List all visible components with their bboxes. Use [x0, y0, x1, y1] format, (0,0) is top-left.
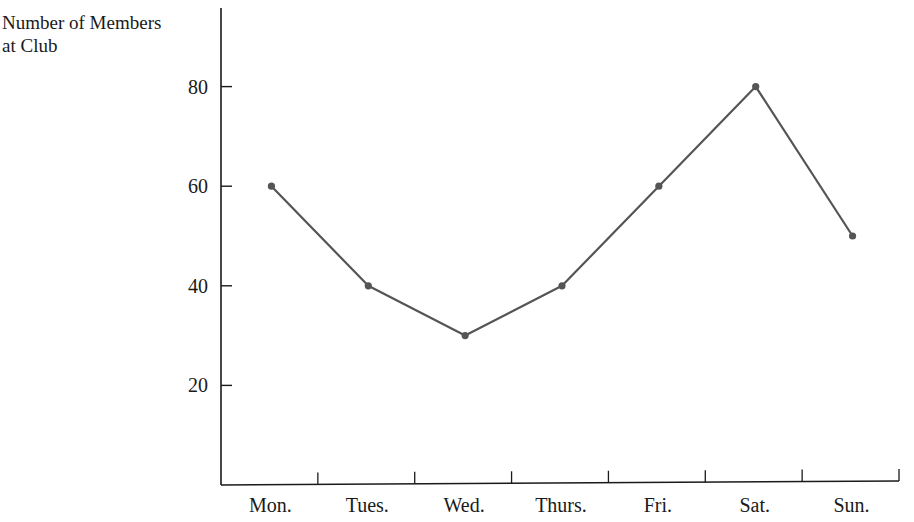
axes: [221, 8, 899, 485]
data-point-marker: [365, 282, 372, 289]
x-axis-ticks: Mon.Tues.Wed.Thurs.Fri.Sat.Sun.: [249, 469, 899, 516]
y-tick-label: 80: [188, 76, 208, 98]
x-tick-label: Wed.: [444, 494, 485, 516]
x-tick-label: Sat.: [739, 494, 770, 516]
y-tick-label: 60: [188, 175, 208, 197]
y-tick-label: 40: [188, 275, 208, 297]
x-tick-label: Mon.: [249, 494, 292, 516]
data-series: [268, 83, 856, 339]
x-axis-line: [221, 481, 899, 485]
series-line: [271, 87, 852, 336]
data-point-marker: [752, 83, 759, 90]
x-tick-label: Thurs.: [535, 494, 587, 516]
y-tick-label: 20: [188, 374, 208, 396]
data-point-marker: [655, 183, 662, 190]
x-tick-label: Sun.: [834, 494, 870, 516]
y-axis-ticks: 20406080: [188, 76, 232, 397]
line-chart: 20406080 Mon.Tues.Wed.Thurs.Fri.Sat.Sun.: [0, 0, 914, 522]
x-tick-label: Tues.: [346, 494, 389, 516]
data-point-marker: [268, 183, 275, 190]
data-point-marker: [558, 282, 565, 289]
data-point-marker: [849, 232, 856, 239]
data-point-marker: [462, 332, 469, 339]
x-tick-label: Fri.: [644, 494, 672, 516]
